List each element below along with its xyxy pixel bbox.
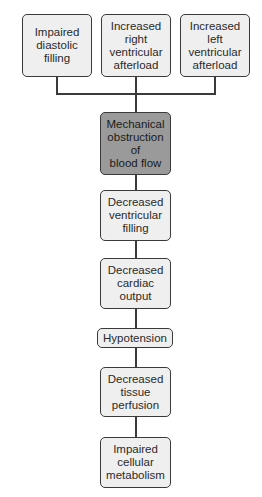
box-decreased-ventricular-filling: Decreased ventricular filling xyxy=(100,190,171,241)
box-decreased-tissue-perfusion: Decreased tissue perfusion xyxy=(100,367,171,417)
box-increased-left-ventricular-afterload: Increased left ventricular afterload xyxy=(180,14,250,77)
connector-cause-3 xyxy=(214,76,216,94)
box-hypotension: Hypotension xyxy=(97,328,173,348)
box-impaired-diastolic-filling: Impaired diastolic filling xyxy=(22,14,92,77)
box-impaired-cellular-metabolism: Impaired cellular metabolism xyxy=(100,437,171,488)
connector-merge-bar xyxy=(56,93,216,95)
box-mechanical-obstruction: Mechanical obstruction of blood flow xyxy=(100,112,171,175)
connector-cause-1 xyxy=(56,76,58,94)
box-increased-right-ventricular-afterload: Increased right ventricular afterload xyxy=(101,14,171,77)
box-decreased-cardiac-output: Decreased cardiac output xyxy=(100,258,171,309)
